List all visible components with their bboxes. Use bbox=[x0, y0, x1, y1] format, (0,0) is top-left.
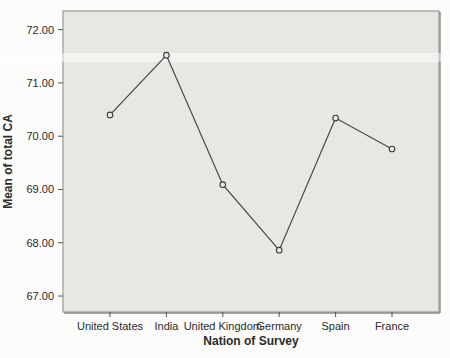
data-point-marker bbox=[276, 247, 282, 253]
x-tick-label: France bbox=[375, 320, 409, 332]
x-tick-label: India bbox=[154, 320, 179, 332]
x-axis-title: Nation of Survey bbox=[203, 334, 299, 348]
y-tick-label: 68.00 bbox=[26, 237, 54, 249]
data-point-marker bbox=[107, 112, 113, 118]
y-tick-label: 67.00 bbox=[26, 290, 54, 302]
data-point-marker bbox=[389, 146, 395, 152]
data-point-marker bbox=[164, 52, 170, 58]
data-point-marker bbox=[220, 182, 226, 188]
y-axis-title: Mean of total CA bbox=[1, 114, 15, 209]
line-chart: 67.0068.0069.0070.0071.0072.00United Sta… bbox=[0, 0, 450, 358]
x-tick-label: Spain bbox=[322, 320, 350, 332]
y-tick-label: 72.00 bbox=[26, 24, 54, 36]
chart-figure: 67.0068.0069.0070.0071.0072.00United Sta… bbox=[0, 0, 450, 358]
y-tick-label: 71.00 bbox=[26, 77, 54, 89]
y-tick-label: 70.00 bbox=[26, 130, 54, 142]
x-tick-label: United Kingdom bbox=[184, 320, 262, 332]
x-tick-label: Germany bbox=[257, 320, 303, 332]
x-tick-label: United States bbox=[77, 320, 144, 332]
data-point-marker bbox=[333, 115, 339, 121]
scan-artifact-band bbox=[0, 53, 450, 62]
y-tick-label: 69.00 bbox=[26, 183, 54, 195]
